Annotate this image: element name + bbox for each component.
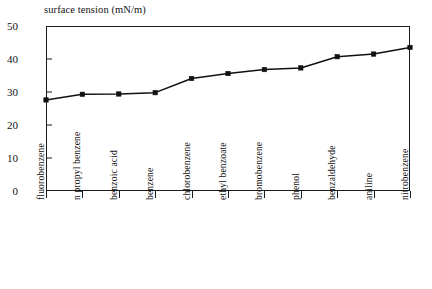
x-tick-label: phenol — [291, 173, 301, 200]
x-tick-mark — [82, 191, 83, 198]
x-tick-mark — [46, 191, 47, 198]
x-axis: fluorobenzenen propyl benzenebenzoic aci… — [0, 0, 432, 289]
y-tick-mark — [46, 92, 52, 93]
x-tick-label: benzaldehyde — [327, 145, 337, 200]
y-tick-mark — [46, 158, 52, 159]
y-tick-mark — [46, 59, 52, 60]
x-tick-label: bromobenzene — [255, 142, 265, 200]
chart-figure: surface tension (mN/m) 01020304050 fluor… — [0, 0, 432, 289]
x-tick-label: n propyl benzene — [73, 132, 83, 200]
x-tick-label: ethyl benzoate — [218, 142, 228, 200]
x-tick-label: nitrobenzene — [400, 149, 410, 200]
x-tick-mark — [228, 191, 229, 198]
y-tick-mark — [46, 125, 52, 126]
x-tick-mark — [337, 191, 338, 198]
x-tick-mark — [264, 191, 265, 198]
x-tick-mark — [155, 191, 156, 198]
x-tick-label: fluorobenzene — [36, 143, 46, 200]
x-tick-label: chlorobenzene — [182, 142, 192, 200]
x-tick-label: aniline — [364, 173, 374, 200]
x-tick-label: benzoic acid — [109, 150, 119, 200]
x-tick-mark — [119, 191, 120, 198]
x-tick-mark — [410, 191, 411, 198]
x-tick-label: benzene — [145, 168, 155, 200]
x-tick-mark — [301, 191, 302, 198]
